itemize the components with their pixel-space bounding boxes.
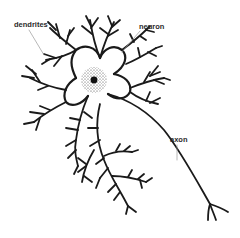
dendrites-leader: [29, 30, 44, 55]
nucleus: [91, 77, 98, 84]
axon-label: axon: [170, 136, 188, 144]
neuron-illustration: [0, 0, 240, 238]
dendrites-right: [122, 26, 170, 104]
dendrites-label: dendrites: [14, 21, 48, 29]
dendrites-lower: [66, 96, 152, 214]
neuron-label: neuron: [139, 23, 164, 31]
dendrites-top: [82, 16, 120, 58]
dendrites-left: [22, 66, 66, 130]
neuron-diagram: dendrites neuron axon: [0, 0, 240, 238]
